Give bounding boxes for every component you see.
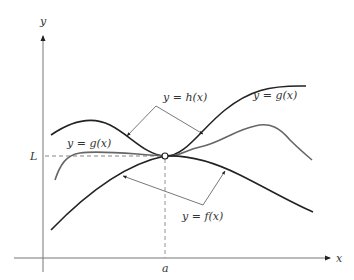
label-h: y = h(x) (162, 91, 207, 104)
L-label: L (29, 150, 37, 163)
pointer-h-right (156, 106, 203, 134)
pointer-h-left (127, 106, 156, 136)
pointer-f-left (123, 176, 203, 205)
curve-g (55, 125, 312, 180)
squeeze-theorem-diagram: y x L a y = h(x) y = g(x) y = g(x) y = f… (0, 0, 354, 280)
y-axis-label: y (39, 15, 47, 28)
a-label: a (162, 262, 169, 275)
x-axis-label: x (336, 252, 343, 265)
pointer-f-right (203, 171, 225, 205)
diagram-canvas: y x L a y = h(x) y = g(x) y = g(x) y = f… (0, 0, 354, 280)
label-g-left: y = g(x) (66, 137, 111, 150)
label-f: y = f(x) (181, 210, 223, 223)
label-g-right: y = g(x) (252, 89, 297, 102)
limit-point-marker (162, 153, 168, 159)
